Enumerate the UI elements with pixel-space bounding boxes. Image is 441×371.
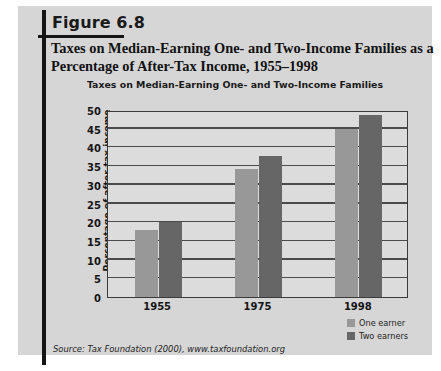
legend-swatch-icon [347, 319, 355, 327]
x-axis-ticks: 195519751998 [107, 301, 408, 317]
y-tick-label: 25 [87, 199, 101, 210]
y-tick-label: 10 [87, 255, 101, 266]
legend-label: One earner [359, 318, 405, 328]
y-axis-ticks: 50454035302520151050 [73, 101, 101, 298]
y-tick-label: 35 [87, 162, 101, 173]
bar-1998-two-earners [359, 115, 382, 297]
y-tick-label: 0 [94, 293, 101, 304]
y-tick-label: 40 [87, 143, 101, 154]
x-tick-label: 1955 [143, 301, 171, 312]
legend-item: One earner [347, 317, 441, 328]
plot-area [107, 111, 408, 298]
figure-label: Figure 6.8 [52, 13, 145, 32]
source-note: Source: Tax Foundation (2000), www.taxfo… [53, 344, 285, 354]
bar-1955-one-earner [135, 230, 158, 297]
y-tick-label: 50 [87, 106, 101, 117]
x-tick-label: 1998 [344, 301, 372, 312]
y-tick-label: 15 [87, 236, 101, 247]
bar-1998-one-earner [335, 129, 358, 297]
y-tick-label: 45 [87, 124, 101, 135]
bar-chart: Percentage of after-tax income 504540353… [51, 101, 423, 331]
x-tick-label: 1975 [244, 301, 272, 312]
y-tick-label: 20 [87, 218, 101, 229]
chart-legend: One earnerTwo earners [347, 317, 441, 343]
left-vertical-rule [42, 10, 46, 365]
bar-1955-two-earners [159, 222, 182, 297]
figure-label-underline [38, 35, 124, 38]
legend-item: Two earners [347, 330, 441, 341]
legend-label: Two earners [359, 331, 408, 341]
chart-title: Taxes on Median-Earning One- and Two-Inc… [51, 79, 419, 90]
figure-title: Taxes on Median-Earning One- and Two-Inc… [51, 40, 441, 75]
figure-panel: Figure 6.8 Taxes on Median-Earning One- … [18, 6, 432, 355]
bar-1975-one-earner [235, 169, 258, 297]
y-tick-label: 30 [87, 180, 101, 191]
legend-swatch-icon [347, 332, 355, 340]
y-tick-label: 5 [94, 274, 101, 285]
bar-1975-two-earners [259, 156, 282, 297]
